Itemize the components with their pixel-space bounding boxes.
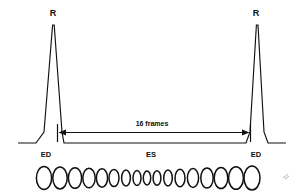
- ventricular-outline-15: [214, 167, 228, 188]
- ventricular-outline-4: [83, 168, 95, 188]
- ventricular-outline-row: [36, 166, 260, 190]
- ventricular-outline-2: [53, 167, 67, 189]
- ed-right-label: ED: [251, 150, 262, 159]
- ventricular-outline-7: [122, 170, 131, 186]
- ecg-diagram-canvas: R R 16 frames ED ES ED: [0, 0, 302, 195]
- r-peak-right-label: R: [253, 8, 260, 18]
- ventricular-outline-16: [229, 167, 244, 190]
- phase-labels: ED ES ED: [41, 150, 262, 159]
- ventricular-outline-17: [244, 166, 260, 190]
- ventricular-outline-3: [68, 168, 81, 189]
- ventricular-outline-5: [96, 169, 107, 187]
- r-peak-labels: R R: [50, 8, 260, 18]
- ventricular-outline-13: [187, 169, 198, 188]
- ventricular-outline-9: [143, 171, 150, 185]
- ventricular-outline-12: [175, 169, 185, 186]
- ed-left-label: ED: [41, 150, 52, 159]
- frame-span-measure: 16 frames: [58, 120, 251, 142]
- ventricular-outline-6: [109, 169, 119, 186]
- frame-span-label: 16 frames: [136, 120, 169, 127]
- ecg-figure: R R 16 frames ED ES ED: [0, 0, 302, 195]
- ventricular-outline-1: [36, 167, 51, 190]
- ventricular-outline-8: [133, 171, 141, 186]
- scan-artifact-mark: [283, 174, 289, 179]
- ventricular-outline-14: [201, 168, 213, 188]
- r-peak-left-label: R: [50, 8, 57, 18]
- es-center-label: ES: [146, 150, 156, 159]
- ventricular-outline-11: [164, 170, 173, 186]
- ventricular-outline-10: [153, 171, 161, 186]
- arrow-right-icon: [242, 129, 250, 135]
